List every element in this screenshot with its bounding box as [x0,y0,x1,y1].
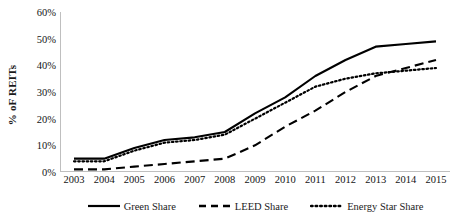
x-axis-tick-label: 2007 [184,174,205,185]
x-axis-tick-label: 2003 [64,174,85,185]
x-axis-tick-label: 2013 [365,174,386,185]
legend-label: Energy Star Share [347,201,423,212]
legend-item-green-share[interactable]: Green Share [87,201,176,212]
y-axis-title-label: % oF REITs [6,65,18,125]
legend-item-leed-share[interactable]: LEED Share [198,201,288,212]
y-axis-tick-label: 30% [37,87,56,98]
y-axis-title: % oF REITs [0,0,24,190]
legend-swatch-dashed-icon [198,201,232,211]
x-axis-tick-label: 2010 [275,174,296,185]
plot-svg [60,12,450,172]
legend-label: Green Share [124,201,176,212]
legend-item-energy-star-share[interactable]: Energy Star Share [310,201,423,212]
x-axis-tick-label: 2012 [335,174,356,185]
series-line-energy-star-share [74,68,436,161]
plot-area [60,12,450,172]
chart-legend: Green ShareLEED ShareEnergy Star Share [60,196,450,216]
y-axis-tick-label: 10% [37,140,56,151]
line-chart: % oF REITs 0%10%20%30%40%50%60% 20032004… [0,0,460,223]
x-axis-tick-label: 2005 [124,174,145,185]
legend-swatch-solid-icon [87,201,121,211]
x-axis-tick-labels: 2003200420052006200720082009201020112012… [60,174,450,190]
legend-label: LEED Share [235,201,288,212]
y-axis-tick-label: 60% [37,7,56,18]
x-axis-tick-label: 2015 [426,174,447,185]
x-axis-tick-label: 2009 [245,174,266,185]
y-axis-tick-label: 20% [37,113,56,124]
y-axis-tick-label: 50% [37,33,56,44]
x-axis-tick-label: 2006 [154,174,175,185]
y-axis-tick-label: 0% [42,167,56,178]
y-axis-tick-label: 40% [37,60,56,71]
x-axis-tick-label: 2011 [305,174,326,185]
legend-swatch-dotted-icon [310,201,344,211]
x-axis-tick-label: 2004 [94,174,115,185]
y-axis-tick-labels: 0%10%20%30%40%50%60% [24,0,60,190]
series-line-green-share [74,41,436,158]
x-axis-tick-label: 2008 [214,174,235,185]
x-axis-tick-label: 2014 [395,174,416,185]
